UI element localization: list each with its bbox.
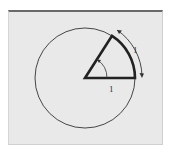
radian-diagram: 1 1	[0, 0, 172, 152]
arc-arrowhead-bottom-icon	[140, 73, 145, 78]
sector-outline	[85, 36, 135, 78]
angle-arc	[97, 60, 107, 79]
arc-length-label: 1	[133, 45, 138, 55]
radius-label: 1	[109, 84, 114, 94]
